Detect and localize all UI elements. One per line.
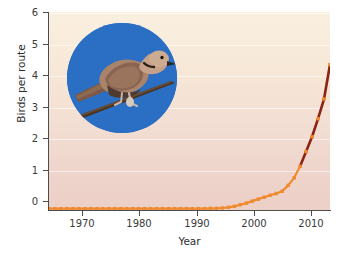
bird-illustration bbox=[67, 23, 177, 133]
x-tick bbox=[139, 211, 140, 216]
x-tick-label: 2000 bbox=[234, 219, 274, 229]
x-tick-label: 1970 bbox=[62, 219, 102, 229]
x-tick-label: 1980 bbox=[119, 219, 159, 229]
chart-figure: 6 5 4 3 2 1 0 1970 1980 1990 2000 2010 B… bbox=[0, 0, 350, 260]
x-axis-label: Year bbox=[49, 236, 330, 247]
y-tick bbox=[43, 12, 48, 13]
x-tick bbox=[82, 211, 83, 216]
x-tick bbox=[197, 211, 198, 216]
y-axis-line bbox=[48, 12, 49, 211]
y-tick bbox=[43, 75, 48, 76]
y-tick-label: 0 bbox=[18, 197, 38, 207]
y-tick bbox=[43, 107, 48, 108]
y-axis-label: Birds per route bbox=[16, 19, 27, 149]
x-tick-label: 1990 bbox=[177, 219, 217, 229]
eurasian-collared-dove-photo bbox=[67, 23, 177, 133]
x-tick bbox=[254, 211, 255, 216]
y-tick bbox=[43, 138, 48, 139]
y-tick-label: 1 bbox=[18, 166, 38, 176]
x-tick-label: 2010 bbox=[291, 219, 331, 229]
y-tick bbox=[43, 44, 48, 45]
x-tick bbox=[311, 211, 312, 216]
y-tick-label: 6 bbox=[18, 8, 38, 18]
y-tick bbox=[43, 170, 48, 171]
y-tick bbox=[43, 201, 48, 202]
x-axis-line bbox=[48, 210, 331, 211]
